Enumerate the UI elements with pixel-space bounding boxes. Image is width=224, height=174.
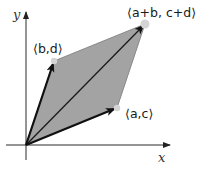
point-sum	[141, 20, 150, 29]
vector-addition-diagram: ⟨b,d⟩ ⟨a+b, c+d⟩ ⟨a,c⟩ y x	[0, 0, 224, 174]
label-b-d: ⟨b,d⟩	[33, 41, 63, 56]
point-b-d	[51, 58, 57, 64]
label-sum: ⟨a+b, c+d⟩	[127, 5, 196, 20]
y-axis-label: y	[12, 7, 21, 22]
label-a-c: ⟨a,c⟩	[125, 106, 153, 121]
point-a-c	[114, 105, 120, 111]
x-axis-label: x	[158, 150, 166, 165]
